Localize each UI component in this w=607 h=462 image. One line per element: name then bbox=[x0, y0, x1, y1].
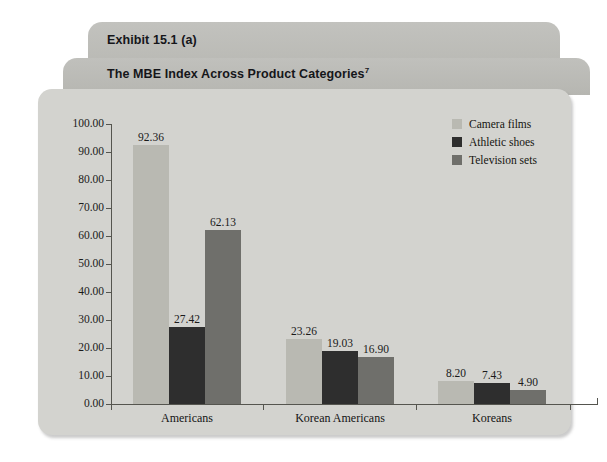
bar-value-label: 4.90 bbox=[518, 376, 538, 388]
bar-value-label: 23.26 bbox=[291, 325, 317, 337]
y-axis-tick bbox=[106, 348, 112, 349]
legend-label: Television sets bbox=[469, 154, 537, 166]
y-axis-label: 40.00 bbox=[44, 285, 104, 297]
bar-item[interactable]: 92.36 bbox=[133, 145, 169, 404]
chart-legend: Camera filmsAthletic shoesTelevision set… bbox=[452, 116, 537, 170]
y-axis-label: 60.00 bbox=[44, 229, 104, 241]
bar-value-label: 92.36 bbox=[138, 131, 164, 143]
y-axis-label: 30.00 bbox=[44, 313, 104, 325]
bar-group: 23.2619.0316.90 bbox=[286, 339, 394, 404]
exhibit-subtitle: The MBE Index Across Product Categories bbox=[107, 67, 365, 81]
x-axis-end-tick bbox=[597, 398, 598, 405]
legend-item[interactable]: Athletic shoes bbox=[452, 134, 537, 150]
bar-rect[interactable] bbox=[438, 381, 474, 404]
legend-swatch bbox=[452, 119, 462, 129]
exhibit-subtitle-wrapper: The MBE Index Across Product Categories7 bbox=[107, 66, 369, 81]
bar-rect[interactable] bbox=[169, 327, 205, 404]
y-axis-tick bbox=[106, 180, 112, 181]
bar-item[interactable]: 7.43 bbox=[474, 383, 510, 404]
bar-rect[interactable] bbox=[510, 390, 546, 404]
bar-item[interactable]: 4.90 bbox=[510, 390, 546, 404]
bar-value-label: 27.42 bbox=[174, 313, 200, 325]
x-axis-category-label: Koreans bbox=[438, 411, 546, 426]
y-axis-tick bbox=[106, 264, 112, 265]
y-axis-label: 90.00 bbox=[44, 145, 104, 157]
x-axis-tick bbox=[570, 404, 571, 410]
legend-item[interactable]: Television sets bbox=[452, 152, 537, 168]
x-axis-line bbox=[111, 404, 598, 405]
bar-item[interactable]: 16.90 bbox=[358, 357, 394, 404]
y-axis-tick bbox=[106, 124, 112, 125]
y-axis-label: 100.00 bbox=[44, 117, 104, 129]
bar-item[interactable]: 8.20 bbox=[438, 381, 474, 404]
bar-value-label: 7.43 bbox=[482, 369, 502, 381]
y-axis-tick bbox=[106, 208, 112, 209]
exhibit-tab-label: Exhibit 15.1 (a) bbox=[107, 33, 197, 47]
legend-item[interactable]: Camera films bbox=[452, 116, 537, 132]
bar-group: 92.3627.4262.13 bbox=[133, 145, 241, 404]
y-axis-tick bbox=[106, 320, 112, 321]
y-axis-tick bbox=[106, 376, 112, 377]
bar-value-label: 8.20 bbox=[446, 367, 466, 379]
bar-rect[interactable] bbox=[358, 357, 394, 404]
bar-rect[interactable] bbox=[322, 351, 358, 404]
footnote-marker: 7 bbox=[365, 66, 370, 75]
y-axis-label: 20.00 bbox=[44, 341, 104, 353]
bar-rect[interactable] bbox=[133, 145, 169, 404]
exhibit-figure: Exhibit 15.1 (a) The MBE Index Across Pr… bbox=[0, 0, 607, 462]
bar-item[interactable]: 19.03 bbox=[322, 351, 358, 404]
x-axis-tick bbox=[416, 404, 417, 410]
y-axis-label: 70.00 bbox=[44, 201, 104, 213]
bar-value-label: 19.03 bbox=[327, 337, 353, 349]
y-axis-tick bbox=[106, 152, 112, 153]
y-axis-label: 50.00 bbox=[44, 257, 104, 269]
bar-group: 8.207.434.90 bbox=[438, 381, 546, 404]
y-axis-label: 0.00 bbox=[44, 397, 104, 409]
bar-value-label: 16.90 bbox=[363, 343, 389, 355]
bar-item[interactable]: 23.26 bbox=[286, 339, 322, 404]
bar-rect[interactable] bbox=[474, 383, 510, 404]
chart-card: 0.0010.0020.0030.0040.0050.0060.0070.008… bbox=[38, 89, 571, 435]
bar-item[interactable]: 27.42 bbox=[169, 327, 205, 404]
bar-value-label: 62.13 bbox=[210, 216, 236, 228]
bar-rect[interactable] bbox=[286, 339, 322, 404]
legend-label: Athletic shoes bbox=[469, 136, 534, 148]
bar-item[interactable]: 62.13 bbox=[205, 230, 241, 404]
x-axis-tick bbox=[111, 404, 112, 410]
y-axis-tick bbox=[106, 292, 112, 293]
legend-swatch bbox=[452, 137, 462, 147]
x-axis-category-label: Americans bbox=[133, 411, 241, 426]
x-axis-tick bbox=[263, 404, 264, 410]
y-axis-label: 80.00 bbox=[44, 173, 104, 185]
x-axis-category-label: Korean Americans bbox=[286, 411, 394, 426]
bar-rect[interactable] bbox=[205, 230, 241, 404]
legend-label: Camera films bbox=[469, 118, 531, 130]
legend-swatch bbox=[452, 155, 462, 165]
y-axis-tick bbox=[106, 236, 112, 237]
y-axis-label: 10.00 bbox=[44, 369, 104, 381]
